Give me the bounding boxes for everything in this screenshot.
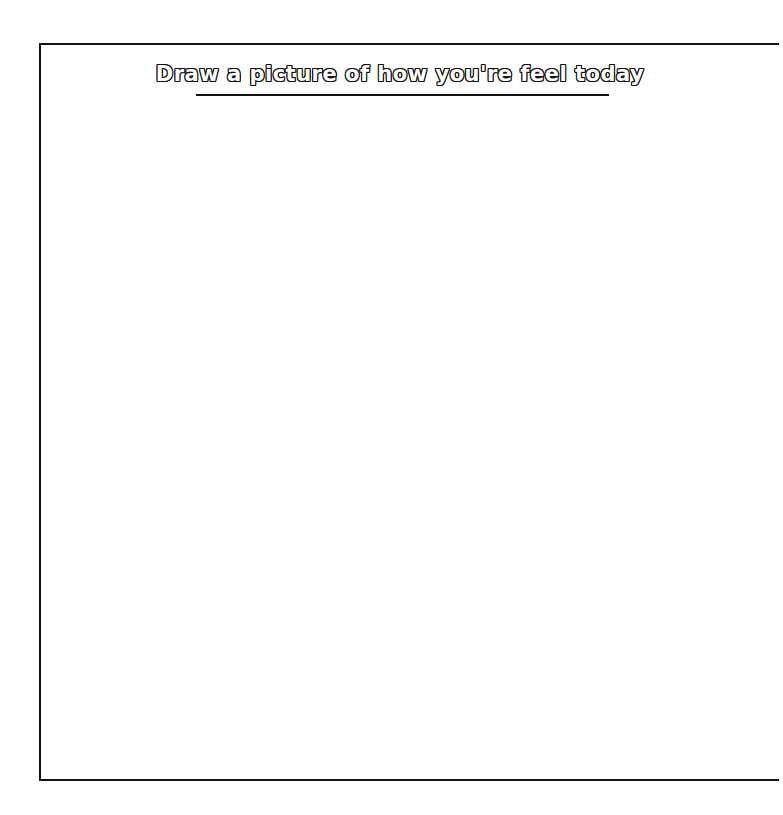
worksheet-title: Draw a picture of how you're feel today (0, 62, 783, 86)
title-underline (196, 94, 609, 96)
drawing-area[interactable] (42, 104, 763, 780)
